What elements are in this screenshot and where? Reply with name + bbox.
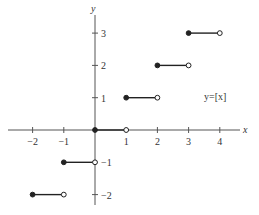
open-endpoint xyxy=(124,128,129,133)
x-axis-label: x xyxy=(242,124,248,135)
plot-area: −2−11234−2−1123 y=[x] x y xyxy=(0,0,259,215)
x-tick-label: 1 xyxy=(124,136,129,147)
step-segments xyxy=(30,31,222,197)
x-tick-label: 2 xyxy=(155,136,160,147)
closed-endpoint xyxy=(124,95,129,100)
open-endpoint xyxy=(217,31,222,36)
closed-endpoint xyxy=(186,31,191,36)
x-tick-label: −1 xyxy=(58,136,69,147)
x-tick-label: −2 xyxy=(27,136,38,147)
y-axis-label: y xyxy=(90,3,96,14)
y-tick-label: −2 xyxy=(101,190,112,201)
closed-endpoint xyxy=(30,192,35,197)
floor-function-chart: −2−11234−2−1123 y=[x] x y xyxy=(0,0,259,215)
open-endpoint xyxy=(93,160,98,165)
function-label: y=[x] xyxy=(204,91,226,102)
open-endpoint xyxy=(186,63,191,68)
x-tick-label: 4 xyxy=(217,136,222,147)
x-tick-label: 3 xyxy=(186,136,191,147)
y-tick-label: −1 xyxy=(101,157,112,168)
y-tick-label: 3 xyxy=(101,28,106,39)
closed-endpoint xyxy=(155,63,160,68)
open-endpoint xyxy=(61,192,66,197)
ticks: −2−11234−2−1123 xyxy=(27,28,222,201)
open-endpoint xyxy=(155,95,160,100)
axes xyxy=(8,15,240,205)
closed-endpoint xyxy=(93,128,98,133)
y-tick-label: 1 xyxy=(101,93,106,104)
y-tick-label: 2 xyxy=(101,60,106,71)
closed-endpoint xyxy=(61,160,66,165)
